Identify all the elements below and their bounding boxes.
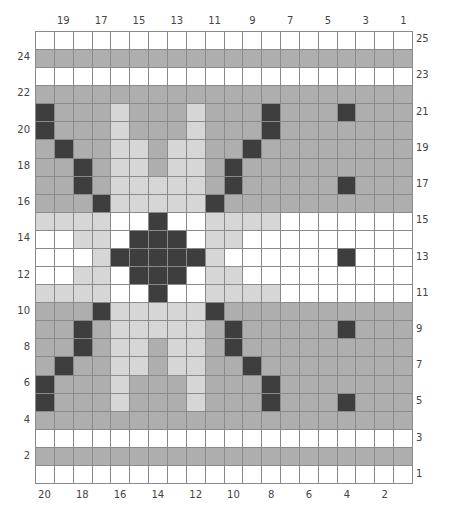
chart-cell-r22-c8 [262, 86, 281, 104]
chart-cell-r10-c20 [36, 303, 55, 321]
chart-cell-r23-c8 [262, 68, 281, 86]
chart-cell-r13-c15 [130, 249, 149, 267]
chart-cell-r9-c7 [281, 321, 300, 339]
chart-cell-r1-c6 [300, 466, 319, 484]
chart-cell-r2-c4 [338, 448, 357, 466]
chart-cell-r17-c1 [394, 177, 413, 195]
chart-cell-r18-c3 [356, 159, 375, 177]
chart-cell-r8-c16 [111, 339, 130, 357]
chart-cell-r13-c17 [93, 249, 112, 267]
chart-cell-r4-c8 [262, 412, 281, 430]
chart-cell-r5-c4 [338, 394, 357, 412]
chart-cell-r21-c11 [206, 104, 225, 122]
chart-cell-r24-c4 [338, 50, 357, 68]
chart-cell-r9-c5 [319, 321, 338, 339]
chart-cell-r8-c17 [93, 339, 112, 357]
chart-cell-r20-c2 [375, 122, 394, 140]
chart-cell-r11-c7 [281, 285, 300, 303]
chart-cell-r11-c2 [375, 285, 394, 303]
chart-cell-r24-c8 [262, 50, 281, 68]
top-lbl-5: 5 [318, 15, 338, 26]
chart-cell-r23-c12 [187, 68, 206, 86]
chart-cell-r11-c12 [187, 285, 206, 303]
chart-cell-r10-c6 [300, 303, 319, 321]
chart-cell-r24-c1 [394, 50, 413, 68]
chart-cell-r4-c9 [243, 412, 262, 430]
chart-cell-r15-c3 [356, 213, 375, 231]
chart-cell-r12-c12 [187, 267, 206, 285]
right-lbl-1: 1 [416, 468, 436, 479]
chart-cell-r19-c17 [93, 140, 112, 158]
chart-cell-r8-c5 [319, 339, 338, 357]
chart-cell-r5-c5 [319, 394, 338, 412]
chart-cell-r19-c5 [319, 140, 338, 158]
chart-cell-r23-c9 [243, 68, 262, 86]
chart-cell-r6-c9 [243, 376, 262, 394]
left-lbl-16: 16 [10, 196, 30, 207]
chart-cell-r25-c12 [187, 32, 206, 50]
chart-cell-r25-c14 [149, 32, 168, 50]
chart-cell-r7-c16 [111, 357, 130, 375]
chart-cell-r23-c17 [93, 68, 112, 86]
chart-cell-r14-c10 [225, 231, 244, 249]
chart-cell-r15-c8 [262, 213, 281, 231]
chart-cell-r4-c11 [206, 412, 225, 430]
chart-cell-r17-c5 [319, 177, 338, 195]
chart-cell-r10-c7 [281, 303, 300, 321]
bot-lbl-16: 16 [110, 489, 130, 500]
chart-cell-r8-c8 [262, 339, 281, 357]
chart-cell-r8-c2 [375, 339, 394, 357]
chart-cell-r6-c10 [225, 376, 244, 394]
chart-cell-r3-c3 [356, 430, 375, 448]
chart-cell-r1-c13 [168, 466, 187, 484]
chart-cell-r6-c8 [262, 376, 281, 394]
chart-cell-r17-c16 [111, 177, 130, 195]
chart-cell-r15-c4 [338, 213, 357, 231]
chart-cell-r21-c3 [356, 104, 375, 122]
chart-cell-r19-c13 [168, 140, 187, 158]
chart-cell-r25-c16 [111, 32, 130, 50]
chart-cell-r10-c9 [243, 303, 262, 321]
chart-cell-r4-c17 [93, 412, 112, 430]
chart-cell-r10-c5 [319, 303, 338, 321]
chart-cell-r6-c14 [149, 376, 168, 394]
chart-cell-r3-c4 [338, 430, 357, 448]
chart-cell-r22-c13 [168, 86, 187, 104]
chart-cell-r15-c10 [225, 213, 244, 231]
chart-cell-r4-c4 [338, 412, 357, 430]
chart-cell-r8-c9 [243, 339, 262, 357]
chart-cell-r22-c17 [93, 86, 112, 104]
chart-cell-r7-c4 [338, 357, 357, 375]
chart-cell-r3-c10 [225, 430, 244, 448]
chart-cell-r14-c13 [168, 231, 187, 249]
right-lbl-21: 21 [416, 106, 436, 117]
chart-cell-r21-c13 [168, 104, 187, 122]
chart-cell-r18-c5 [319, 159, 338, 177]
chart-cell-r10-c19 [55, 303, 74, 321]
chart-cell-r15-c17 [93, 213, 112, 231]
chart-cell-r12-c3 [356, 267, 375, 285]
chart-cell-r19-c20 [36, 140, 55, 158]
chart-cell-r11-c18 [74, 285, 93, 303]
chart-cell-r16-c18 [74, 195, 93, 213]
chart-cell-r5-c10 [225, 394, 244, 412]
chart-cell-r4-c2 [375, 412, 394, 430]
chart-cell-r17-c11 [206, 177, 225, 195]
chart-cell-r23-c18 [74, 68, 93, 86]
chart-cell-r24-c12 [187, 50, 206, 68]
chart-cell-r20-c11 [206, 122, 225, 140]
chart-cell-r12-c18 [74, 267, 93, 285]
chart-cell-r15-c20 [36, 213, 55, 231]
chart-cell-r20-c13 [168, 122, 187, 140]
chart-cell-r24-c14 [149, 50, 168, 68]
chart-cell-r9-c14 [149, 321, 168, 339]
right-lbl-3: 3 [416, 432, 436, 443]
chart-cell-r16-c12 [187, 195, 206, 213]
chart-cell-r17-c6 [300, 177, 319, 195]
chart-cell-r21-c7 [281, 104, 300, 122]
chart-cell-r6-c17 [93, 376, 112, 394]
chart-cell-r3-c1 [394, 430, 413, 448]
bot-lbl-6: 6 [299, 489, 319, 500]
chart-cell-r14-c11 [206, 231, 225, 249]
top-lbl-1: 1 [394, 15, 414, 26]
